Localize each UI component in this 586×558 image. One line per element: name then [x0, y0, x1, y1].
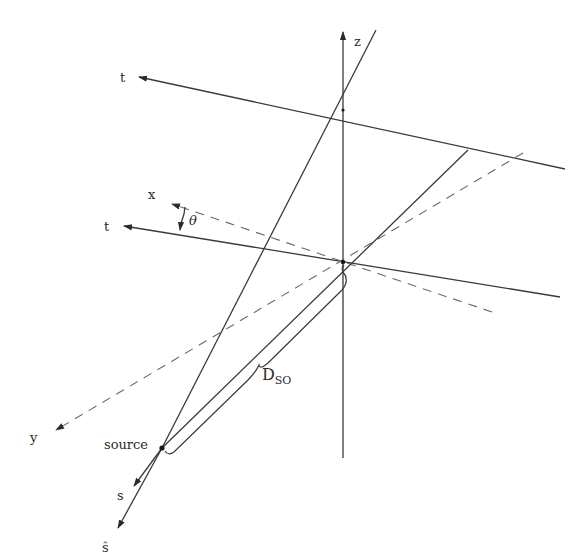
dso-label: DSO	[262, 365, 291, 387]
t-axis-top-label: t	[120, 70, 126, 85]
origin-point	[341, 260, 345, 264]
t-axis-mid-label: t	[104, 219, 110, 234]
dso-subscript: SO	[275, 374, 292, 387]
s-axis-line	[134, 448, 162, 486]
y-axis-dashed-line	[56, 153, 523, 430]
dso-main: D	[262, 365, 275, 384]
s-axis-label: s	[117, 488, 124, 503]
s-hat-axis-line	[118, 448, 162, 528]
source-label: source	[104, 437, 148, 452]
projection-geometry-diagram: z t t x y θ s ŝ DSO source	[0, 0, 586, 558]
source-point	[159, 445, 164, 450]
z-axis-label: z	[354, 34, 361, 49]
theta-label: θ	[189, 213, 197, 228]
dso-brace	[165, 265, 346, 454]
t-axis-top-line	[139, 77, 565, 169]
s-hat-axis-label: ŝ	[102, 540, 109, 555]
ray-central	[162, 150, 468, 448]
x-axis-label: x	[148, 187, 156, 202]
upper-intersection-point	[341, 108, 344, 111]
x-axis-dashed-line	[172, 204, 492, 312]
y-axis-label: y	[29, 430, 38, 445]
ray-upper	[162, 30, 376, 448]
theta-angle-arc	[180, 207, 185, 230]
